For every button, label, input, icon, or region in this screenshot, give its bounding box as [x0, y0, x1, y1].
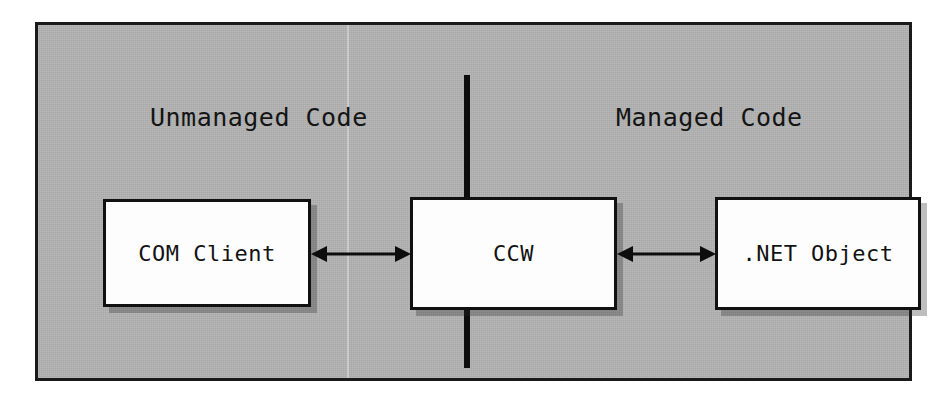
box-ccw-label: CCW [493, 241, 534, 266]
region-label-managed: Managed Code [616, 105, 803, 130]
box-ccw: CCW [410, 197, 617, 310]
box-com-client-label: COM Client [138, 241, 275, 266]
diagram-panel: Unmanaged Code Managed Code COM Client C… [35, 22, 912, 381]
scan-line-artifact [347, 25, 349, 378]
connector-com-client-to-ccw [311, 242, 411, 266]
box-com-client: COM Client [103, 199, 311, 307]
connector-ccw-to-net-object [617, 242, 716, 266]
box-net-object: .NET Object [715, 197, 921, 310]
region-label-unmanaged: Unmanaged Code [150, 105, 368, 130]
diagram-canvas: Unmanaged Code Managed Code COM Client C… [0, 0, 944, 405]
box-net-object-label: .NET Object [742, 241, 893, 266]
